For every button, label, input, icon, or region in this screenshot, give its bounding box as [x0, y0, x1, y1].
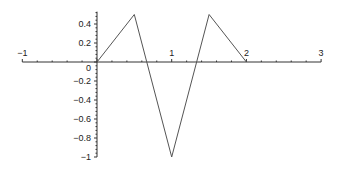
- y-tick-label: −1: [81, 152, 91, 162]
- y-tick-label: −0.2: [73, 76, 91, 86]
- x-tick-label: 1: [169, 48, 174, 58]
- x-tick-label: −1: [17, 48, 27, 58]
- y-tick-label: −0.8: [73, 133, 91, 143]
- line-chart: −1123 0.40.20−0.2−0.4−0.6−0.8−1: [0, 0, 339, 169]
- y-axis: [94, 12, 97, 157]
- y-tick-label: −0.6: [73, 114, 91, 124]
- x-tick-labels: −1123: [17, 48, 323, 58]
- data-series-line: [97, 15, 246, 158]
- y-tick-label: 0: [86, 63, 91, 73]
- x-tick-label: 2: [244, 48, 249, 58]
- y-tick-label: −0.4: [73, 95, 91, 105]
- y-tick-labels: 0.40.20−0.2−0.4−0.6−0.8−1: [73, 19, 91, 162]
- y-tick-label: 0.2: [78, 38, 91, 48]
- x-tick-label: 3: [319, 48, 324, 58]
- y-tick-label: 0.4: [78, 19, 91, 29]
- x-axis: [22, 59, 321, 62]
